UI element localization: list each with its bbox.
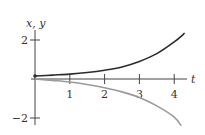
series-x-line: [35, 33, 185, 76]
x-tick-label: 1: [66, 88, 73, 101]
series-x-start-marker: [33, 74, 37, 78]
y-tick-label: −2: [12, 112, 28, 125]
y-tick-label: 2: [21, 34, 28, 47]
x-tick-label: 2: [101, 88, 108, 101]
t-axis-label: t: [191, 73, 196, 86]
x-ticks: 1234: [66, 74, 177, 101]
series-y-line: [35, 79, 181, 126]
chart: 1234 2−2 t x, y: [0, 0, 205, 135]
xy-axis-label: x, y: [26, 17, 46, 30]
x-tick-label: 4: [171, 88, 178, 101]
